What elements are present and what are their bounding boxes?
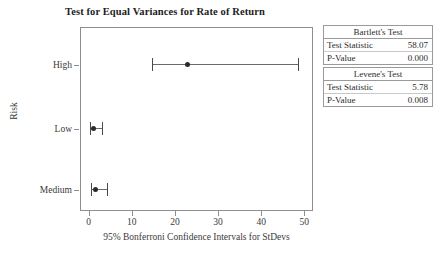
stats-table-bartlett: Bartlett's TestTest Statistic58.07P-Valu… [323, 25, 433, 65]
y-tick-mark [74, 190, 79, 191]
x-tick-label: 20 [170, 217, 180, 227]
x-tick-label: 50 [300, 217, 310, 227]
stats-row-label: Test Statistic [327, 40, 373, 50]
stats-row-value: 0.008 [408, 95, 428, 105]
stats-row-label: P-Value [327, 53, 356, 63]
stats-table-levene: Levene's TestTest Statistic5.78P-Value0.… [323, 67, 433, 107]
x-tick-mark [132, 211, 133, 216]
stats-table-title: Levene's Test [324, 68, 432, 81]
stats-table-title: Bartlett's Test [324, 26, 432, 39]
x-tick-mark [304, 211, 305, 216]
ci-cap-lower [152, 58, 153, 71]
stats-row-value: 0.000 [408, 53, 428, 63]
x-tick-label: 40 [256, 217, 266, 227]
stats-row: Test Statistic5.78 [324, 81, 432, 94]
y-tick-mark [74, 129, 79, 130]
stats-row-label: P-Value [327, 95, 356, 105]
equal-variances-chart: Test for Equal Variances for Rate of Ret… [0, 0, 437, 255]
stats-panel: Bartlett's TestTest Statistic58.07P-Valu… [323, 25, 433, 109]
stats-row-label: Test Statistic [327, 82, 373, 92]
x-tick-label: 30 [213, 217, 223, 227]
x-tick-mark [261, 211, 262, 216]
y-tick-label-low: Low [55, 124, 72, 134]
ci-cap-upper [298, 58, 299, 71]
ci-cap-lower [91, 183, 92, 196]
x-tick-mark [89, 211, 90, 216]
plot-area [80, 27, 313, 211]
x-tick-mark [218, 211, 219, 216]
chart-title: Test for Equal Variances for Rate of Ret… [0, 6, 330, 17]
ci-cap-upper [107, 183, 108, 196]
y-tick-label-medium: Medium [40, 185, 72, 195]
ci-interval-low [80, 122, 313, 136]
stats-row-value: 5.78 [412, 82, 428, 92]
ci-interval-medium [80, 183, 313, 197]
stdev-point-marker [91, 126, 96, 131]
x-tick-label: 10 [127, 217, 137, 227]
stats-row: P-Value0.000 [324, 52, 432, 64]
stats-row: P-Value0.008 [324, 94, 432, 106]
stats-row: Test Statistic58.07 [324, 39, 432, 52]
x-tick-mark [175, 211, 176, 216]
y-tick-label-high: High [53, 60, 72, 70]
ci-interval-high [80, 58, 313, 72]
ci-cap-upper [102, 122, 103, 135]
x-axis-title: 95% Bonferroni Confidence Intervals for … [80, 232, 313, 242]
ci-line [152, 64, 299, 65]
stdev-point-marker [93, 187, 98, 192]
x-tick-label: 0 [86, 217, 91, 227]
stdev-point-marker [185, 62, 190, 67]
y-axis-title: Risk [9, 81, 19, 141]
y-tick-mark [74, 65, 79, 66]
stats-row-value: 58.07 [408, 40, 428, 50]
